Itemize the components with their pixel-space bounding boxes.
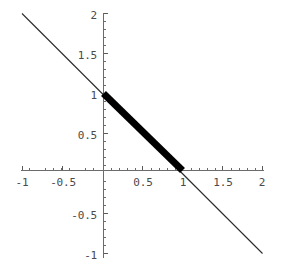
x-axis-major-ticks [23, 166, 263, 170]
x-tick-label-1-5: 1.5 [213, 176, 232, 189]
y-axis-major-ticks [104, 14, 108, 254]
x-tick-label-neg0-5: -0.5 [50, 176, 76, 189]
y-tick-label-2: 2 [61, 9, 97, 22]
y-tick-label-0-5: 0.5 [61, 129, 97, 142]
y-tick-label-1-5: 1.5 [61, 49, 97, 62]
x-tick-label-0-5: 0.5 [133, 176, 152, 189]
x-tick-label-2: 2 [259, 176, 265, 189]
plot-svg [0, 0, 283, 271]
plot-canvas: -1 -0.5 0.5 1 1.5 2 2 1.5 1 0.5 -0.5 -1 [0, 0, 283, 271]
x-tick-label-1: 1 [180, 176, 186, 189]
x-tick-label-neg1: -1 [16, 176, 29, 189]
y-tick-label-neg0-5: -0.5 [61, 209, 97, 222]
series-thick-segment [104, 94, 183, 171]
y-tick-label-1: 1 [61, 89, 97, 102]
y-tick-label-neg1: -1 [61, 249, 97, 262]
